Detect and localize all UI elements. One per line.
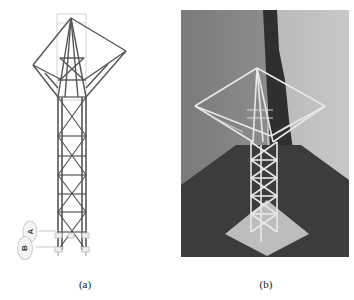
panel-b-photo: (b) [177,0,354,300]
tower-photo [181,10,349,257]
panel-a-model-drawing: A B (a) [0,0,177,300]
label-a-text: A [26,229,35,235]
photo-scene [181,10,349,257]
caption-b: (b) [246,278,286,290]
label-b-text: B [20,245,29,251]
caption-a: (a) [65,278,105,290]
label-b-bubble: B [17,236,33,260]
